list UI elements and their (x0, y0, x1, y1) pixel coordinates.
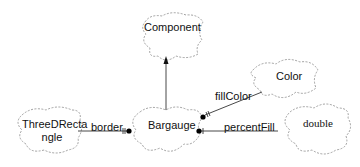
percentfill-aggregation-dot-icon (196, 128, 201, 133)
threedrectangle-cloud (18, 107, 82, 153)
component-cloud (143, 13, 203, 60)
double-cloud (285, 104, 351, 154)
class-bargauge-label: Bargauge (148, 119, 196, 131)
class-double-label: double (303, 117, 333, 129)
edge-label-percentfill: percentFill (224, 121, 275, 133)
class-threedrectangle-label-line1: ThreeDRecta (22, 118, 82, 130)
class-color-label: Color (276, 70, 302, 82)
edge-label-border: border (91, 121, 123, 133)
fillcolor-aggregation-dot-icon (200, 114, 205, 119)
class-diagram: Component Color ThreeDRecta ngle Bargaug… (0, 0, 360, 167)
border-aggregation-dot-icon (126, 128, 131, 133)
class-threedrectangle-label-line2: ngle (22, 131, 82, 143)
class-component-label: Component (144, 21, 201, 33)
edge-label-fillcolor: fillColor (215, 90, 252, 102)
